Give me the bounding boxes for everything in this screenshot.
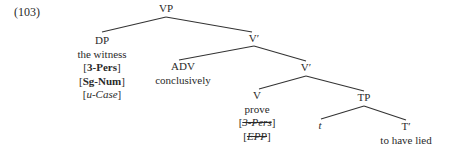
- terminal-word: prove: [239, 103, 276, 117]
- feature-epp-checked: [EPP]: [239, 130, 276, 144]
- terminal-word: the witness: [77, 48, 126, 62]
- edge-vp-dp: [102, 17, 166, 32]
- node-vp: VP: [159, 2, 173, 16]
- edge-tp-trace: [321, 106, 364, 119]
- node-dp: DP the witness [3-Pers] [Sg-Num] [u-Case…: [77, 34, 126, 102]
- node-trace: t: [318, 119, 321, 133]
- edge-vbar2-tp: [306, 76, 364, 91]
- node-tp: TP: [358, 91, 371, 105]
- node-label: ADV: [155, 60, 211, 74]
- node-label: V: [239, 89, 276, 103]
- edge-vp-vbar1: [166, 17, 252, 32]
- node-tbar: T′ to have lied: [380, 120, 431, 147]
- terminal-word: conclusively: [155, 74, 211, 88]
- terminal-word: to have lied: [380, 134, 431, 148]
- node-label: T′: [380, 120, 431, 134]
- node-label: V′: [249, 32, 259, 46]
- node-adv: ADV conclusively: [155, 60, 211, 87]
- node-label: V′: [301, 61, 311, 75]
- feature-3-pers: [3-Pers]: [77, 61, 126, 75]
- edge-vbar1-adv: [179, 46, 254, 60]
- feature-u-case: [u-Case]: [77, 88, 126, 102]
- node-label: VP: [159, 2, 173, 16]
- node-vbar-1: V′: [249, 32, 259, 46]
- node-vbar-2: V′: [301, 61, 311, 75]
- node-label: DP: [77, 34, 126, 48]
- feature-3-pers-checked: [3-Pers]: [239, 116, 276, 130]
- edge-tp-tbar: [364, 106, 406, 120]
- edge-vbar1-vbar2: [254, 46, 306, 61]
- node-v: V prove [3-Pers] [EPP]: [239, 89, 276, 143]
- node-label: TP: [358, 91, 371, 105]
- feature-sg-num: [Sg-Num]: [77, 75, 126, 89]
- node-label: t: [318, 119, 321, 133]
- edge-vbar2-v: [259, 76, 306, 89]
